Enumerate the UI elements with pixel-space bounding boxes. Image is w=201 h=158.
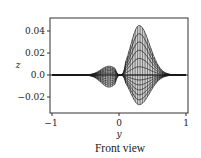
y-tick-label-0.0: 0.0 <box>31 70 46 80</box>
wireframe-curve <box>52 75 186 100</box>
wireframe-curve <box>52 34 186 75</box>
wireframe-curve <box>52 75 186 105</box>
chart-caption: Front view <box>95 142 146 154</box>
x-tick-label-0: 0 <box>116 118 122 128</box>
x-axis-label: y <box>115 129 122 139</box>
wireframe-curve <box>52 42 186 75</box>
plot-frame <box>50 18 188 113</box>
y-axis-label: z <box>15 60 21 70</box>
x-tick-label-1: 1 <box>183 118 189 128</box>
y-tick-label-0.04: 0.04 <box>25 26 45 36</box>
wireframe-verticals <box>89 26 171 105</box>
wireframe-curve <box>52 50 186 75</box>
y-tick-label-neg0.02: −0.02 <box>17 92 45 102</box>
wireframe-curve <box>52 59 186 76</box>
wireframe-curve <box>52 75 186 95</box>
front-view-chart: 0.04 0.02 0.0 −0.02 −1 0 1 y z Front vie… <box>0 0 201 158</box>
wireframe-curves <box>52 26 186 105</box>
x-tick-label-neg1: −1 <box>44 118 57 128</box>
wireframe-curve <box>52 75 186 90</box>
wireframe-curve <box>52 26 186 76</box>
y-tick-label-0.02: 0.02 <box>25 48 45 58</box>
